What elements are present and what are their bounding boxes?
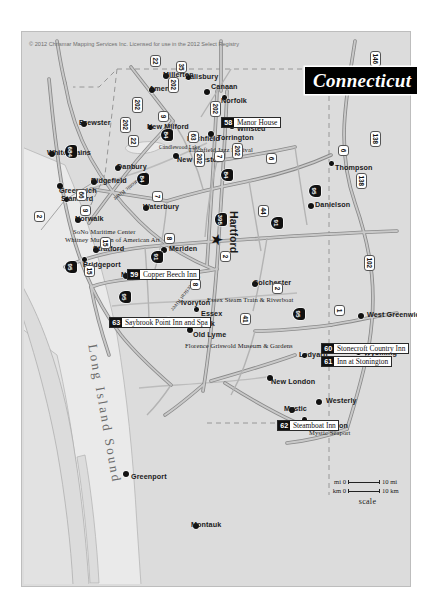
inn-name-61: Inn at Stonington (334, 357, 390, 366)
inn-number-58: 58 (222, 118, 234, 127)
inn-marker-58[interactable]: 58 Manor House (221, 117, 281, 128)
interstate-shield-291[interactable]: 395 (215, 213, 227, 226)
route-shield-202b[interactable]: 202 (120, 117, 131, 133)
inn-name-60: Stonecroft Country Inn (334, 344, 408, 353)
route-shield-2c[interactable]: 2 (34, 211, 45, 222)
interstate-shield-95[interactable]: 95 (119, 291, 131, 303)
city-dot-essex[interactable] (194, 307, 199, 312)
route-shield-44[interactable]: 202 (232, 143, 243, 159)
city-label-new-london: New London (271, 378, 315, 385)
scale-mi-end: 10 mi (380, 478, 406, 485)
city-label-norfolk: Norfolk (221, 97, 247, 104)
copyright-credit: © 2012 Chrismar Mapping Services Inc. Li… (29, 41, 239, 47)
map-canvas[interactable]: Long Island Sound ★ Hartford (17, 25, 417, 591)
map-page: Long Island Sound ★ Hartford (0, 0, 433, 616)
capital-star-icon: ★ (210, 233, 225, 246)
city-label-montauk: Montauk (191, 521, 221, 528)
city-label-ivoryton: Ivoryton (181, 299, 210, 306)
poi-label-sono-maritime-center: SoNo Maritime Center (73, 229, 135, 236)
interstate-shield-84b[interactable]: 84 (137, 173, 149, 185)
scale-bar-graphic (348, 480, 380, 484)
route-shield-9[interactable]: 8 (190, 279, 201, 290)
city-dot-greenport[interactable] (123, 471, 129, 477)
route-shield-22[interactable]: 22 (150, 55, 161, 67)
scale-km-end: 10 km (380, 487, 406, 494)
scale-caption: scale (329, 497, 406, 506)
city-dot-west-greenwich[interactable] (358, 313, 364, 319)
route-shield-1[interactable]: 1 (334, 305, 345, 316)
route-shield-6[interactable]: 6 (338, 145, 349, 156)
scale-row-km: km 0 10 km (329, 486, 406, 495)
route-shield-15b[interactable]: 15 (84, 265, 95, 277)
poi-label-whitney-museum: Whitney Museum of American Art (65, 237, 160, 244)
poi-label-florence-griswold: Florence Griswold Museum & Gardens (185, 343, 293, 350)
route-shield-138[interactable]: 102 (364, 255, 375, 271)
route-shield-8b[interactable]: 7 (152, 191, 163, 202)
city-dot-westerly[interactable] (316, 399, 322, 405)
route-shield-8[interactable]: 7 (214, 151, 225, 162)
city-dot-thompson[interactable] (329, 161, 334, 166)
city-dot-danielson[interactable] (308, 203, 314, 209)
scale-bar: mi 0 10 mi km 0 10 km scale (329, 477, 406, 506)
route-shield-102b[interactable]: 138 (356, 173, 367, 189)
route-shield-9b[interactable]: 8 (164, 233, 175, 244)
inn-marker-59[interactable]: 59 Copper Beech Inn (127, 269, 200, 280)
route-shield-7[interactable]: 9 (158, 111, 169, 122)
inn-marker-62[interactable]: 62 Steamboat Inn (277, 420, 339, 431)
city-label-old-lyme: Old Lyme (193, 331, 226, 338)
city-label-brewster: Brewster (79, 119, 111, 126)
route-shield-22b[interactable]: 22 (128, 135, 139, 147)
route-shield-35[interactable]: 66 (76, 189, 87, 201)
scale-mi-start: mi 0 (329, 478, 348, 485)
route-shield-66[interactable]: 44 (258, 205, 269, 217)
city-label-canaan: Canaan (211, 83, 238, 90)
route-shield-2[interactable]: 2 (272, 283, 283, 294)
route-shield-44b[interactable]: 202 (210, 101, 221, 117)
city-label-hartford: Hartford (228, 211, 239, 253)
interstate-shield-84c[interactable]: 84 (161, 129, 173, 141)
route-shield-202[interactable]: 202 (194, 151, 205, 167)
interstate-shield-395b[interactable]: 95 (293, 308, 305, 320)
interstate-shield-95b[interactable]: 95 (65, 261, 77, 273)
city-label-west-greenwich: West Greenwich (367, 311, 417, 318)
interstate-shield-91b[interactable]: 91 (151, 251, 163, 263)
interstate-shield-684[interactable]: 684 (65, 145, 77, 158)
city-label-meriden: Meriden (169, 245, 197, 252)
route-shield-2b[interactable]: 2 (220, 251, 231, 262)
city-label-danbury: Danbury (117, 163, 147, 170)
inn-number-63: 63 (110, 318, 122, 327)
route-shield-7b[interactable]: 9 (80, 205, 91, 216)
route-shield-15[interactable]: 15 (100, 237, 111, 249)
inn-number-61: 61 (322, 357, 334, 366)
route-shield-44c[interactable]: 202 (168, 77, 179, 93)
inn-marker-60[interactable]: 60 Stonecroft Country Inn (321, 343, 409, 354)
route-shield-6b[interactable]: 6 (266, 153, 277, 164)
inn-marker-63[interactable]: 63 Saybrook Point Inn and Spa (109, 317, 211, 328)
city-dot-canaan[interactable] (204, 89, 210, 95)
route-shield-146[interactable]: 146 (370, 51, 381, 67)
interstate-shield-84[interactable]: 84 (221, 169, 233, 181)
route-shield-11[interactable]: 41 (240, 313, 251, 325)
scale-bar-graphic-km (348, 489, 380, 493)
map-title-plate: Connecticut (305, 67, 417, 94)
city-label-westerly: Westerly (326, 397, 357, 404)
scale-row-miles: mi 0 10 mi (329, 477, 406, 486)
map-title-text: Connecticut (313, 71, 411, 90)
inn-marker-61[interactable]: 61 Inn at Stonington (321, 356, 392, 367)
interstate-shield-91[interactable]: 91 (271, 217, 283, 229)
rotated-map-container: Long Island Sound ★ Hartford (17, 25, 417, 591)
route-shield-102[interactable]: 138 (370, 131, 381, 147)
inn-number-59: 59 (128, 270, 140, 279)
city-label-ridgefield: Ridgefield (91, 177, 127, 184)
poi-label-essex-steam-train: Essex Steam Train & Riverboat (207, 297, 293, 304)
route-shield-63[interactable]: 63 (188, 131, 199, 143)
inn-number-62: 62 (278, 421, 290, 430)
inn-name-62: Steamboat Inn (290, 421, 338, 430)
route-shield-41[interactable]: 35 (176, 61, 187, 73)
city-label-norwalk: Norwalk (75, 215, 104, 222)
inn-name-63: Saybrook Point Inn and Spa (122, 318, 210, 327)
route-shield-44d[interactable]: 202 (132, 97, 143, 113)
city-label-mystic: Mystic (284, 405, 307, 412)
interstate-shield-395[interactable]: 95 (309, 185, 321, 197)
city-label-waterbury: Waterbury (143, 203, 179, 210)
